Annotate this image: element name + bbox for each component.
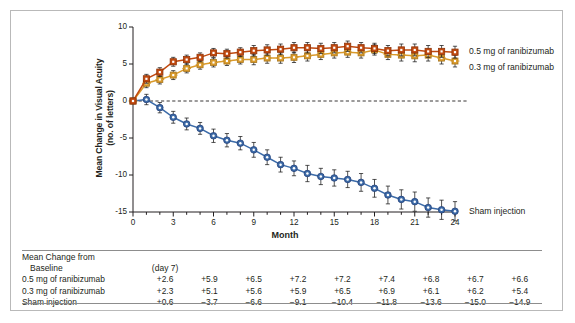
legend-label-sham: Sham injection (469, 206, 525, 216)
table-header-row-1: Mean Change from (22, 252, 542, 263)
summary-table: Mean Change from Baseline (day 7) 0.5 mg… (22, 252, 542, 308)
table-row-label: 0.3 mg of ranibizumab (22, 286, 143, 297)
table-cell: +6.7 (453, 274, 497, 285)
table-cell: +7.4 (365, 274, 409, 285)
table-bottom-rule (22, 303, 542, 304)
x-axis-tick-label: 0 (119, 218, 147, 227)
table-col-header-day7: (day 7) (143, 263, 187, 274)
table-cell: +6.5 (320, 286, 364, 297)
table-cell: +7.2 (276, 274, 320, 285)
series-ranibizumab-03 (129, 45, 460, 104)
table-header-row-2: Baseline (day 7) (22, 263, 542, 274)
x-axis-tick-label: 12 (280, 218, 308, 227)
table-cell: +6.5 (232, 274, 276, 285)
x-axis-tick-label: 15 (320, 218, 348, 227)
table-cell: +7.2 (320, 274, 364, 285)
table-cell: +6.1 (409, 286, 453, 297)
legend-label-ranibizumab-03: 0.3 mg of ranibizumab (469, 62, 554, 72)
y-axis-tick-label: -5 (99, 133, 127, 142)
table-row: 0.3 mg of ranibizumab+2.3+5.1+5.6+5.9+6.… (22, 286, 542, 297)
chart-plot-area: Mean Change in Visual Acuity (no. of let… (0, 0, 575, 250)
table-cell: +6.6 (498, 274, 542, 285)
table-head: Mean Change from Baseline (day 7) (22, 252, 542, 274)
x-axis-tick-label: 21 (401, 218, 429, 227)
series-sham (130, 94, 459, 221)
y-axis-tick-label: -15 (99, 207, 127, 216)
table-cell: +5.9 (276, 286, 320, 297)
table-cell: +6.9 (365, 286, 409, 297)
table-row-label: 0.5 mg of ranibizumab (22, 274, 143, 285)
legend-label-ranibizumab-05: 0.5 mg of ranibizumab (469, 46, 554, 56)
x-axis-title: Month (120, 230, 450, 240)
table-cell: +5.6 (232, 286, 276, 297)
table-cell: +5.1 (187, 286, 231, 297)
table-row: 0.5 mg of ranibizumab+2.6+5.9+6.5+7.2+7.… (22, 274, 542, 285)
table-title-line1: Mean Change from (22, 252, 143, 263)
figure-container: Mean Change in Visual Acuity (no. of let… (0, 0, 575, 323)
x-axis-tick-label: 18 (361, 218, 389, 227)
y-axis-tick-label: 10 (99, 22, 127, 31)
table-top-rule (22, 250, 542, 251)
x-axis-tick-label: 9 (240, 218, 268, 227)
table-cell: +2.6 (143, 274, 187, 285)
table-cell: +5.9 (187, 274, 231, 285)
x-axis-tick-label: 24 (441, 218, 469, 227)
mean-change-table: Mean Change from Baseline (day 7) 0.5 mg… (22, 252, 542, 308)
y-axis-tick-label: -10 (99, 170, 127, 179)
table-title-line2: Baseline (22, 263, 143, 274)
y-axis-tick-label: 0 (99, 96, 127, 105)
table-cell: +6.2 (453, 286, 497, 297)
table-cell: +5.4 (498, 286, 542, 297)
table-cell: +2.3 (143, 286, 187, 297)
y-axis-title: Mean Change in Visual Acuity (no. of let… (94, 18, 115, 218)
y-axis-title-line1: Mean Change in Visual Acuity (94, 59, 104, 178)
y-axis-tick-label: 5 (99, 59, 127, 68)
x-axis-tick-label: 6 (200, 218, 228, 227)
table-cell: +6.8 (409, 274, 453, 285)
x-axis-tick-label: 3 (159, 218, 187, 227)
